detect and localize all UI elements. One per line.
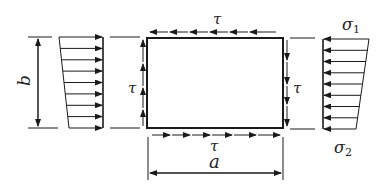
diagram-canvas: b a τ τ τ τ: [0, 0, 377, 186]
height-label: b: [14, 75, 34, 86]
stressed-plate-diagram: b a τ τ τ τ: [0, 0, 377, 186]
left-normal-stress-distribution: [59, 37, 103, 128]
tau-left-label: τ: [128, 79, 137, 97]
plate-rectangle: [147, 38, 283, 128]
tau-bottom-label: τ: [210, 137, 219, 155]
sigma1-label: σ1: [342, 15, 360, 36]
tau-right-label: τ: [293, 79, 302, 97]
sigma2-label: σ2: [334, 138, 352, 159]
right-normal-stress-distribution: [323, 39, 369, 129]
extension-lines: [28, 37, 315, 180]
tau-top-label: τ: [213, 10, 222, 28]
